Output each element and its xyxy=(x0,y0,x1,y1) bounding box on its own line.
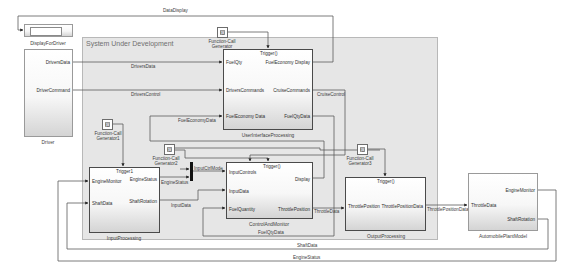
apm-output-port-2: ShaftRotation xyxy=(507,217,535,222)
cam-input-port-1: InputControls xyxy=(229,170,256,175)
op-input-port-1: ThrottlePosition xyxy=(348,204,380,209)
cam-output-port-1: Display xyxy=(295,177,310,182)
automobile-plant-model-block[interactable]: ThrottleData EngineMonitor ShaftRotation xyxy=(468,173,538,231)
driver-block[interactable]: DriversData DriverCommand xyxy=(24,49,73,137)
signal-label-fuel-economy-data: FuelEconomyData xyxy=(178,118,216,123)
function-icon: f() xyxy=(360,147,365,152)
display-for-driver-label: DisplayForDriver xyxy=(30,41,66,46)
cam-trigger-port: Trigger() xyxy=(263,164,280,169)
driver-output-port-1: DriversData xyxy=(46,60,70,65)
automobile-plant-model-label: AutomobilePlantModel xyxy=(479,234,527,239)
signal-label-drivers-control: DriversControl xyxy=(131,92,160,97)
mux-block[interactable] xyxy=(190,162,193,181)
uip-input-port-2: DriversCommands xyxy=(226,88,264,93)
function-call-generator1-block[interactable]: f() xyxy=(102,119,113,130)
cam-output-port-2: ThrottlePosition xyxy=(278,207,310,212)
signal-label-data-display: DataDisplay xyxy=(163,8,188,13)
ip-input-port-2: ShaftData xyxy=(92,201,112,206)
apm-input-port-1: ThrottleData xyxy=(471,203,496,208)
ip-input-port-1: EngineMonitor xyxy=(92,179,122,184)
function-icon: f() xyxy=(220,30,225,35)
signal-label-input-ctrl-mode: InputCtrlMode xyxy=(194,166,223,171)
apm-output-port-1: EngineMonitor xyxy=(505,188,535,193)
function-call-generator2-label: Function-Call Generator2 xyxy=(152,156,179,166)
signal-label-throttle-position-data: ThrottlePositionData xyxy=(427,207,469,212)
control-and-monitor-label: ControlAndMonitor xyxy=(249,222,289,227)
ip-output-port-2: ShaftRotation xyxy=(129,199,157,204)
uip-output-port-2: CruiseCommands xyxy=(273,88,310,93)
signal-label-engine-status: EngineStatus xyxy=(161,180,188,185)
control-and-monitor-block[interactable]: Trigger() InputControls InputData FuelQu… xyxy=(226,162,313,219)
user-interface-processing-block[interactable]: Trigger() FuelQty DriversCommands FuelEc… xyxy=(223,49,313,130)
uip-trigger-port: Trigger() xyxy=(260,51,277,56)
cam-input-port-3: FuelQuantity xyxy=(229,207,255,212)
cam-input-port-2: InputData xyxy=(229,189,249,194)
function-call-generator-label: Function-Call Generator xyxy=(208,39,235,49)
op-trigger-port: Trigger() xyxy=(377,179,394,184)
signal-label-shaft-data: ShaftData xyxy=(297,243,317,248)
function-call-generator1-label: Function-Call Generator1 xyxy=(94,131,121,141)
output-processing-label: OutputProcessing xyxy=(367,234,405,239)
signal-label-cruise-control: CruiseControl xyxy=(317,92,345,97)
uip-input-port-1: FuelQty xyxy=(226,60,242,65)
uip-input-port-3: FuelEconomy Data xyxy=(226,114,265,119)
output-processing-block[interactable]: Trigger() ThrottlePosition ThrottlePosit… xyxy=(345,177,426,231)
function-icon: f() xyxy=(167,147,172,152)
function-call-generator3-label: Function-Call Generator3 xyxy=(346,156,373,166)
function-call-generator3-block[interactable]: f() xyxy=(357,144,368,155)
simulink-canvas: System Under Development xyxy=(0,0,565,277)
driver-output-port-2: DriverCommand xyxy=(37,88,70,93)
signal-label-drivers-data: DriversData xyxy=(131,64,155,69)
uip-output-port-1: FuelEconomy Display xyxy=(266,60,310,65)
signal-label-input-data: InputData xyxy=(171,203,191,208)
input-processing-label: InputProcessing xyxy=(107,236,141,241)
function-call-generator-block[interactable]: f() xyxy=(217,27,228,38)
uip-output-port-3: FuelQtyData xyxy=(284,114,310,119)
ip-output-port-1: EngineStatus xyxy=(130,177,157,182)
display-screen xyxy=(30,27,62,36)
user-interface-processing-label: UserInterfaceProcessing xyxy=(242,133,295,138)
function-call-generator2-block[interactable]: f() xyxy=(164,144,175,155)
ip-trigger-port: Trigger1 xyxy=(116,169,133,174)
display-for-driver-block[interactable] xyxy=(24,24,73,37)
input-processing-block[interactable]: Trigger1 EngineMonitor ShaftData EngineS… xyxy=(89,167,160,233)
signal-label-engine-status-loop: EngineStatus xyxy=(293,255,320,260)
function-icon: f() xyxy=(105,122,110,127)
signal-label-throttle-data: ThrottleData xyxy=(314,209,339,214)
op-output-port-1: ThrottlePositionData xyxy=(381,204,423,209)
driver-label: Driver xyxy=(42,140,55,145)
signal-label-fuel-qty-data: FuelQtyData xyxy=(258,230,284,235)
